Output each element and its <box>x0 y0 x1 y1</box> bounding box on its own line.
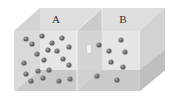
chamber-a-label: A <box>52 13 60 25</box>
two-chamber-box-diagram: A B <box>0 0 175 99</box>
chamber-b-label: B <box>119 13 126 25</box>
